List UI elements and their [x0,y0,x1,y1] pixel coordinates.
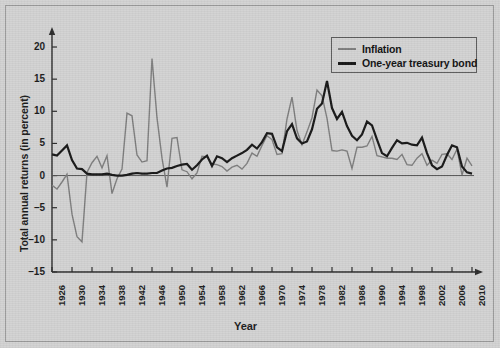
legend-swatch-inflation [338,48,356,50]
x-tick-label: 1978 [316,285,327,306]
legend-item-treasury: One-year treasury bond [338,57,477,69]
y-tick-label: 20 [15,41,45,52]
x-tick-label: 1946 [156,285,167,306]
legend-label-treasury: One-year treasury bond [362,57,477,69]
y-tick-label: –10 [15,234,45,245]
chart-figure: Total annual returns (in percent) Year 2… [0,0,500,348]
y-tick-label: 5 [15,137,45,148]
x-tick-label: 1974 [296,285,307,306]
x-tick-label: 1958 [216,285,227,306]
x-tick-label: 1990 [376,285,387,306]
x-tick-label: 1982 [336,285,347,306]
chart-legend: Inflation One-year treasury bond [331,37,477,73]
x-tick-label: 1994 [396,285,407,306]
x-tick-label: 1942 [136,285,147,306]
x-tick-label: 2002 [436,285,447,306]
x-tick-label: 1998 [416,285,427,306]
y-tick-label: –5 [15,202,45,213]
legend-label-inflation: Inflation [362,43,401,55]
x-tick-label: 1938 [116,285,127,306]
x-tick-label: 1934 [96,285,107,306]
y-tick-label: 15 [15,73,45,84]
x-tick-label: 1986 [356,285,367,306]
x-tick-label: 2010 [476,285,487,306]
x-tick-label: 2006 [456,285,467,306]
y-tick-label: 10 [15,105,45,116]
x-tick-label: 1966 [256,285,267,306]
x-tick-label: 1926 [56,285,67,306]
x-tick-label: 1930 [76,285,87,306]
y-tick-label: –15 [15,266,45,277]
x-tick-label: 1962 [236,285,247,306]
x-tick-label: 1954 [196,285,207,306]
x-axis-label: Year [234,320,257,332]
legend-swatch-treasury [338,62,356,65]
y-tick-label: 0 [15,170,45,181]
x-tick-label: 1950 [176,285,187,306]
x-tick-label: 1970 [276,285,287,306]
legend-item-inflation: Inflation [338,43,401,55]
